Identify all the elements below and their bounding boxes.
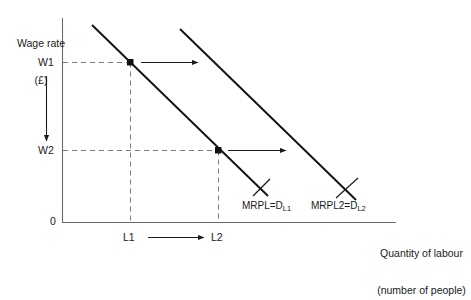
y-tick-label-w2: W2 (38, 144, 54, 156)
curve-label-mrpl2: MRPL2=DL2 (311, 200, 366, 212)
curve-label-mrpl2-sub: L2 (357, 204, 365, 213)
leader-line-curve1-label (253, 179, 270, 196)
x-tick-label-l2: L2 (211, 231, 223, 243)
leader-lines-group (253, 178, 358, 198)
origin-label: 0 (50, 215, 56, 227)
curve-label-mrpl2-main: MRPL2=D (311, 200, 357, 211)
x-axis-title: Quantity of labour (number of people) (372, 222, 471, 300)
curve-label-mrpl1-main: MRPL=D (242, 200, 283, 211)
equilibrium-point-1 (127, 59, 134, 66)
leader-line-curve2-label (336, 178, 358, 198)
guide-lines-group (63, 63, 219, 223)
y-tick-label-w1: W1 (38, 56, 54, 68)
y-axis-title-line2: (£) (6, 74, 76, 86)
axes-group (62, 18, 396, 223)
curve-label-mrpl1-sub: L1 (283, 204, 291, 213)
x-axis-title-line2: (number of people) (372, 284, 471, 296)
demand-curve-mrpl2 (180, 29, 356, 200)
x-axis-title-line1: Quantity of labour (372, 247, 471, 259)
demand-curves-group (92, 25, 356, 200)
curve-label-mrpl1: MRPL=DL1 (242, 200, 291, 212)
equilibrium-point-2 (215, 147, 222, 154)
y-axis-title-line1: Wage rate (6, 37, 76, 49)
demand-curve-mrpl1 (92, 25, 268, 196)
x-tick-label-l1: L1 (123, 231, 135, 243)
